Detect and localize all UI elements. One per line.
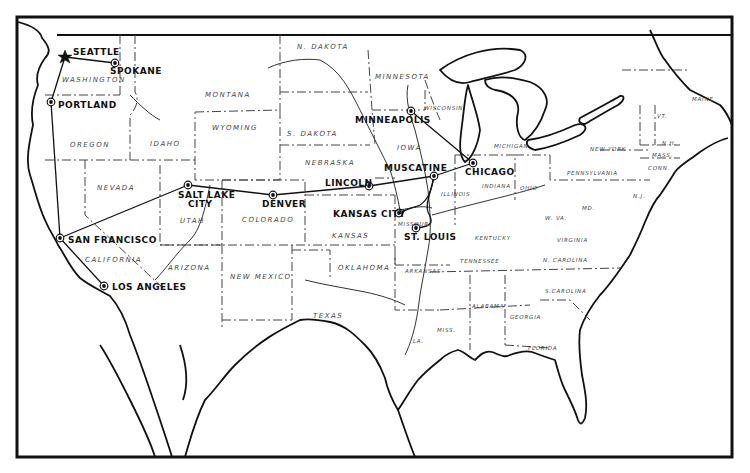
state-label: N.H. [662,140,677,146]
city-label-chicago: CHICAGO [465,167,515,177]
state-label: PENNSYLVANIA [567,170,618,176]
city-label-kansas-city: KANSAS CITY [333,209,406,219]
state-label: MONTANA [205,91,251,99]
state-label: KENTUCKY [475,235,511,241]
state-label: IOWA [397,144,422,152]
state-label: N. DAKOTA [297,43,349,51]
state-label: UTAH [180,217,205,225]
state-label: S.CAROLINA [545,288,587,294]
state-label: OREGON [70,141,110,149]
state-label: N. CAROLINA [543,257,588,263]
state-label: MASS. [652,152,673,158]
city-label-spokane: SPOKANE [110,66,162,76]
city-label-san-francisco: SAN FRANCISCO [68,235,157,245]
city-label-los-angeles: LOS ANGELES [112,282,187,292]
state-label: MD. [582,205,595,211]
state-label: NEW YORK [590,146,626,152]
city-label-muscatine: MUSCATINE [384,163,447,173]
city-label-seattle: SEATTLE [73,47,120,57]
great-lakes [440,49,624,162]
state-label: GEORGIA [510,314,541,320]
state-label: N.J. [633,193,645,200]
state-label: KANSAS [332,232,369,240]
city-dot-icon [469,159,477,167]
state-label: NEVADA [97,184,135,192]
city-dot-icon [184,181,192,189]
city-dot-icon [100,282,108,290]
state-label: NEBRASKA [305,159,355,167]
city-dot-icon [430,172,438,180]
us-route-map: SEATTLE SPOKANE PORTLAND SAN FRANCISCO L… [0,0,750,473]
state-label: IDAHO [150,140,181,148]
state-label: INDIANA [482,183,511,189]
city-label-lincoln: LINCOLN [325,178,373,188]
state-label: ARIZONA [167,264,211,272]
state-label: CONN. [648,165,670,171]
state-label: MAINE [692,96,714,102]
state-label: S. DAKOTA [287,130,338,138]
city-dot-icon [47,98,55,106]
city-label-salt-lake-city: CITY [188,199,213,209]
state-label: MISSOURI [398,221,431,227]
state-label: ILLINOIS [441,191,470,197]
city-dot-icon [269,191,277,199]
state-label: OKLAHOMA [338,264,390,272]
state-label: W. VA. [545,215,567,221]
city-label-portland: PORTLAND [58,100,117,110]
state-label: LA. [413,338,424,344]
state-label: MISS. [437,327,456,333]
state-label: ALABAMA [471,303,504,309]
city-label-minneapolis: MINNEAPOLIS [355,115,431,125]
state-label: ARKANSAS [404,268,441,274]
state-label: MINNESOTA [375,73,430,81]
state-label: WYOMING [212,124,258,132]
city-dot-icon [407,107,415,115]
state-label: VT. [657,113,668,119]
city-label-denver: DENVER [262,199,306,209]
state-label: WASHINGTON [62,76,126,84]
state-label: CALIFORNIA [85,256,142,264]
state-label: NEW MEXICO [230,273,292,281]
state-label: VIRGINIA [557,237,588,243]
state-label: TEXAS [313,312,343,320]
star-icon [58,50,72,63]
state-label: WISCONSIN [424,105,463,111]
state-label: TENNESSEE [460,258,499,264]
state-label: FLORIDA [528,345,557,351]
state-label: COLORADO [242,216,294,224]
city-dot-icon [56,234,64,242]
city-label-st-louis: ST. LOUIS [404,232,457,242]
state-label: MICHIGAN [494,143,529,149]
state-label: OHIO [520,185,538,191]
